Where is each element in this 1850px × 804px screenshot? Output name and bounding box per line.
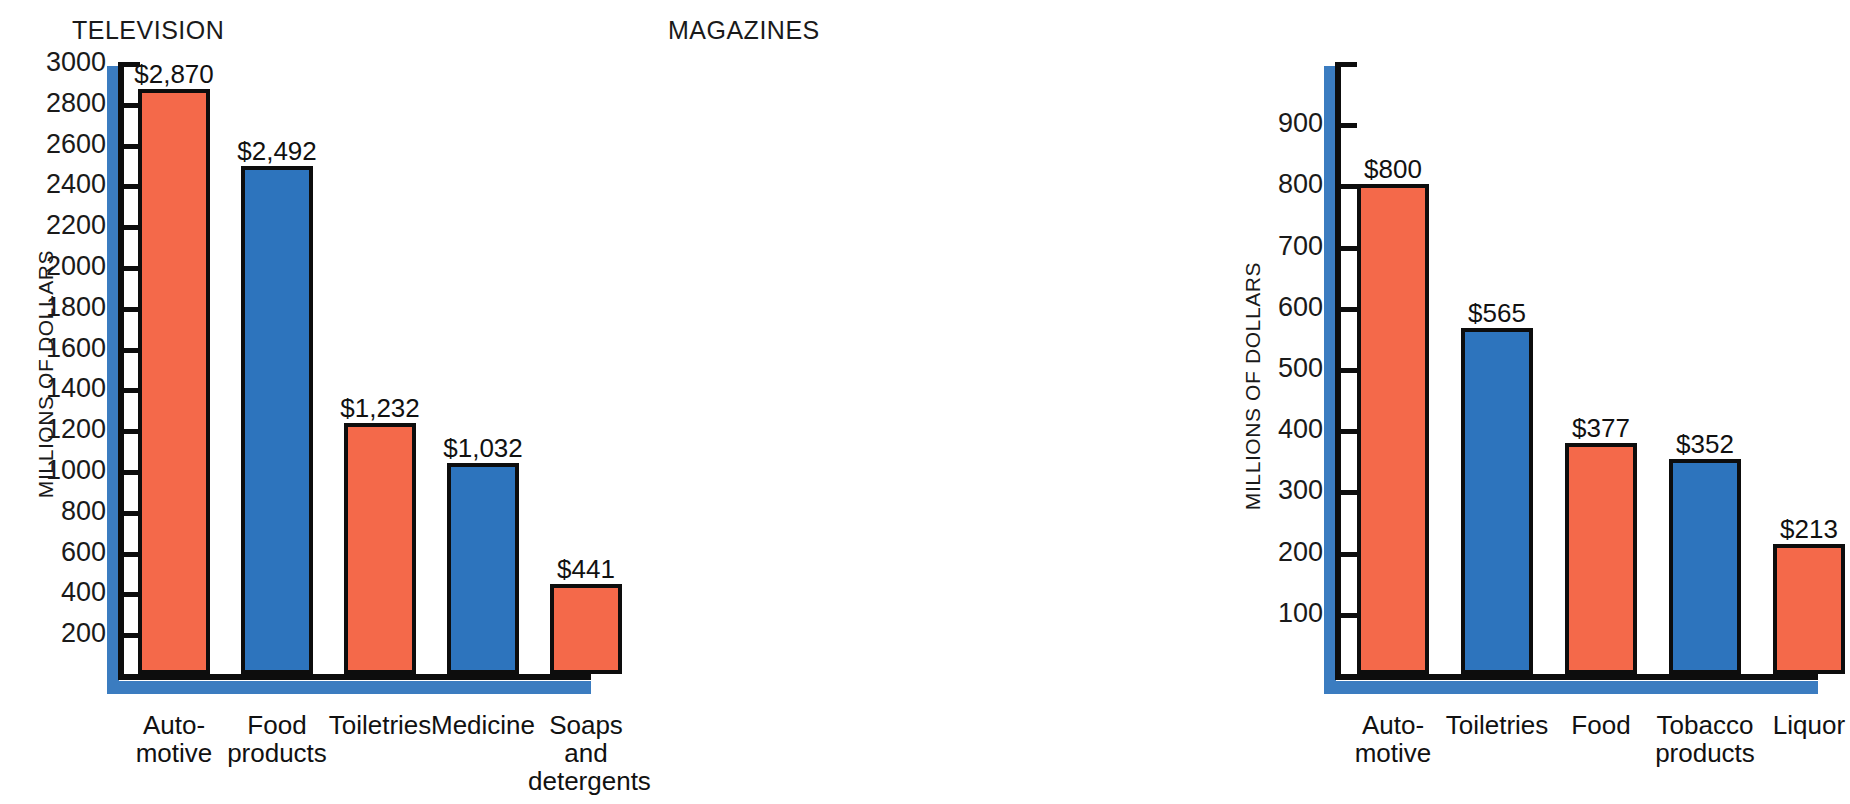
y-axis-tick: 800 [1341, 184, 1357, 189]
y-axis-tick-label: 400 [1278, 416, 1323, 443]
bar: $800 [1357, 184, 1429, 674]
bar: $352 [1669, 459, 1741, 674]
bar-value-label: $1,232 [340, 395, 420, 421]
y-axis-tick-label: 900 [1278, 110, 1323, 137]
y-axis-tick-label: 300 [1278, 477, 1323, 504]
y-axis-tick: 700 [1341, 246, 1357, 251]
y-axis-caption: MILLIONS OF DOLLARS [1241, 236, 1265, 536]
x-axis-category-label: Auto- motive [1335, 712, 1451, 768]
x-axis-category-label: Tobacco products [1647, 712, 1763, 768]
y-axis-tick-label: 100 [1278, 599, 1323, 626]
bar-value-label: $800 [1364, 156, 1422, 182]
y-axis-tick-label: 2200 [46, 212, 106, 239]
bar-value-label: $2,492 [237, 138, 317, 164]
bar: $565 [1461, 328, 1533, 674]
y-axis-tick-label: 3000 [46, 49, 106, 76]
y-axis-tick-label: 600 [1278, 293, 1323, 320]
chart-panel-magazines: MAGAZINES MILLIONS OF DOLLARS 1002003004… [613, 0, 1227, 804]
bar-value-label: $441 [557, 556, 615, 582]
y-axis-tick-label: 800 [61, 497, 106, 524]
y-axis-tick-label: 1000 [46, 457, 106, 484]
x-axis-category-label: Food products [219, 712, 335, 768]
bar-value-label: $1,032 [443, 435, 523, 461]
x-axis-category-label: Auto- motive [116, 712, 232, 768]
y-axis-line [118, 62, 124, 680]
y-axis-tick: 300 [1341, 490, 1357, 495]
chart-panel-television: TELEVISION MILLIONS OF DOLLARS 200400600… [0, 0, 613, 804]
y-axis-tick [1341, 62, 1357, 67]
x-axis-line [1335, 674, 1818, 680]
axis-shadow-horizontal [1324, 681, 1818, 694]
y-axis-tick-label: 2000 [46, 253, 106, 280]
y-axis-tick-label: 2400 [46, 171, 106, 198]
bar: $1,232 [344, 423, 416, 674]
y-axis-tick-label: 600 [61, 538, 106, 565]
x-axis-category-label: Toiletries [1439, 712, 1555, 740]
x-axis-category-label: Medicine [425, 712, 541, 740]
y-axis-tick-label: 400 [61, 579, 106, 606]
y-axis-tick-label: 2800 [46, 89, 106, 116]
y-axis-tick: 600 [1341, 307, 1357, 312]
y-axis-tick: 900 [1341, 123, 1357, 128]
bar: $2,492 [241, 166, 313, 674]
y-axis-tick-label: 1200 [46, 416, 106, 443]
y-axis-tick: 100 [1341, 613, 1357, 618]
plot-area-television: MILLIONS OF DOLLARS 20040060080010001200… [118, 62, 583, 680]
y-axis-tick-label: 800 [1278, 171, 1323, 198]
bar: $213 [1773, 544, 1845, 674]
y-axis-tick-label: 500 [1278, 355, 1323, 382]
y-axis-tick: 500 [1341, 368, 1357, 373]
bar: $1,032 [447, 463, 519, 674]
y-axis-tick-label: 200 [61, 620, 106, 647]
plot-area-magazines: MILLIONS OF DOLLARS 10020030040050060070… [1335, 62, 1810, 680]
y-axis-tick-label: 1400 [46, 375, 106, 402]
y-axis-tick: 200 [1341, 552, 1357, 557]
y-axis-tick-label: 200 [1278, 538, 1323, 565]
x-axis-line [118, 674, 591, 680]
bar: $441 [550, 584, 622, 674]
chart-title-television: TELEVISION [72, 16, 685, 45]
bar-value-label: $2,870 [134, 61, 214, 87]
bar: $2,870 [138, 89, 210, 674]
bar-value-label: $377 [1572, 415, 1630, 441]
bar-value-label: $213 [1780, 516, 1838, 542]
y-axis-tick-label: 700 [1278, 232, 1323, 259]
y-axis-tick-label: 1800 [46, 293, 106, 320]
bar-value-label: $352 [1676, 431, 1734, 457]
bar-value-label: $565 [1468, 300, 1526, 326]
x-axis-category-label: Toiletries [322, 712, 438, 740]
y-axis-tick: 400 [1341, 429, 1357, 434]
y-axis-tick-label: 2600 [46, 130, 106, 157]
axis-shadow-horizontal [107, 681, 591, 694]
x-axis-category-label: Food [1543, 712, 1659, 740]
bar: $377 [1565, 443, 1637, 674]
chart-title-magazines: MAGAZINES [668, 16, 1282, 45]
x-axis-category-label: Liquor [1751, 712, 1850, 740]
y-axis-tick-label: 1600 [46, 334, 106, 361]
